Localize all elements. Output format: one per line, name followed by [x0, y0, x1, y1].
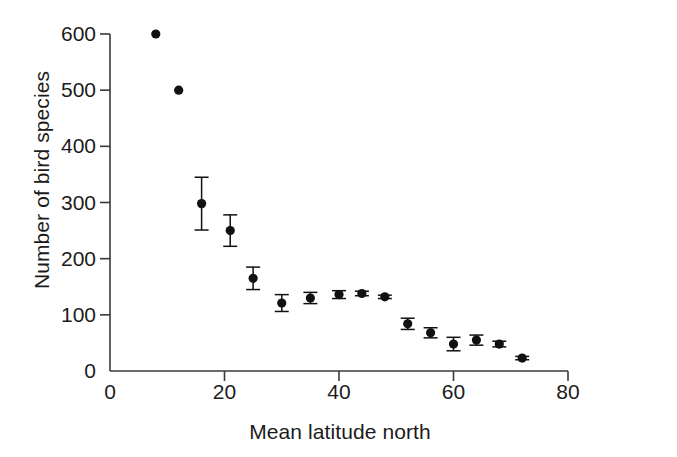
data-marker — [249, 274, 258, 283]
data-marker — [174, 86, 183, 95]
data-point — [355, 289, 369, 298]
data-point — [492, 339, 506, 348]
data-point — [151, 29, 160, 38]
data-point — [174, 86, 183, 95]
data-marker — [426, 328, 435, 337]
data-marker — [403, 319, 412, 328]
data-marker — [197, 199, 206, 208]
chart-figure: Number of bird species Mean latitude nor… — [0, 0, 677, 457]
data-point — [303, 292, 317, 303]
data-marker — [151, 29, 160, 38]
data-point — [195, 177, 209, 230]
data-point — [424, 328, 438, 338]
data-marker — [380, 292, 389, 301]
scatter-plot-area — [0, 0, 677, 457]
data-point — [469, 335, 483, 345]
data-point — [515, 353, 529, 362]
data-point — [246, 267, 260, 289]
data-point — [401, 318, 415, 329]
data-point — [275, 295, 289, 312]
data-marker — [226, 226, 235, 235]
data-marker — [334, 290, 343, 299]
data-marker — [518, 353, 527, 362]
data-marker — [472, 336, 481, 345]
data-point — [447, 337, 461, 350]
data-point — [223, 215, 237, 246]
data-marker — [357, 289, 366, 298]
data-point — [378, 292, 392, 301]
data-marker — [306, 293, 315, 302]
data-marker — [277, 298, 286, 307]
data-marker — [449, 339, 458, 348]
data-marker — [495, 339, 504, 348]
data-point — [332, 290, 346, 299]
